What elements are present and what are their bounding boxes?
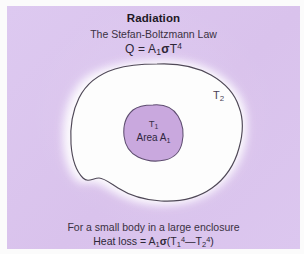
enclosure-temperature-label: T2 xyxy=(213,89,224,103)
stefan-boltzmann-formula: Q = A1σT4 xyxy=(7,42,300,58)
formula-temp-exponent: 4 xyxy=(177,41,182,51)
figure-frame: Radiation The Stefan-Boltzmann Law Q = A… xyxy=(0,0,304,254)
body-temperature-label: T1 xyxy=(7,118,300,130)
t2-subscript: 2 xyxy=(220,94,224,103)
t1-subscript: 1 xyxy=(155,123,159,130)
heatloss-equals: = xyxy=(140,235,146,247)
heat-loss-formula: Heat loss = A1σ(T14—T24) xyxy=(7,235,300,249)
formula-lhs: Q xyxy=(125,42,135,56)
formula-equals: = xyxy=(138,42,145,56)
body-area-label: Area A1 xyxy=(7,132,300,145)
heatloss-close-paren: ) xyxy=(210,235,214,247)
caption-line-1: For a small body in a large enclosure xyxy=(7,221,300,233)
page-title: Radiation xyxy=(7,12,300,26)
formula-sigma: σ xyxy=(161,42,169,56)
heatloss-minus: — xyxy=(185,235,196,247)
illustration-panel: Radiation The Stefan-Boltzmann Law Q = A… xyxy=(7,6,300,249)
heatloss-prefix: Heat loss xyxy=(93,235,137,247)
law-subtitle: The Stefan-Boltzmann Law xyxy=(7,28,300,40)
t2-symbol: T xyxy=(213,89,220,101)
area-prefix: Area A xyxy=(136,132,166,143)
heatloss-sigma: σ xyxy=(160,235,167,247)
area-subscript: 1 xyxy=(167,136,171,145)
